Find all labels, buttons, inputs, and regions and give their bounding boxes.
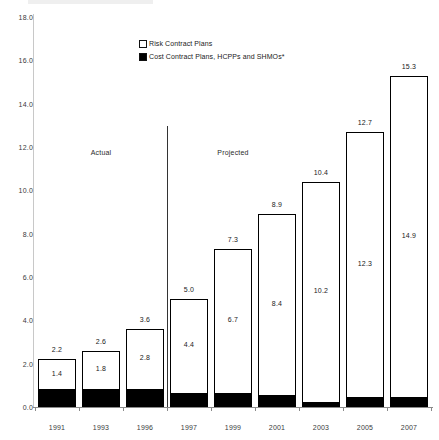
- bar-segment-risk: [38, 359, 76, 407]
- bar-segment-risk: [390, 76, 428, 408]
- bar-segment-risk: [302, 182, 340, 407]
- bar-group: 2.21.4: [38, 0, 76, 407]
- bar-segment-cost: [171, 393, 207, 406]
- y-axis-tick-label: 2.0: [5, 360, 33, 367]
- x-axis-tick-label: 2003: [313, 424, 329, 431]
- y-axis-tick-label: 12.0: [5, 144, 33, 151]
- x-axis-tick-label: 1999: [225, 424, 241, 431]
- bar-segment-risk: [170, 299, 208, 407]
- x-axis-tick-mark: [35, 407, 36, 411]
- x-axis-tick-mark: [167, 407, 168, 411]
- bar-group: 15.314.9: [390, 0, 428, 407]
- bar-group: 3.62.8: [126, 0, 164, 407]
- bar-total-value-label: 5.0: [170, 286, 208, 293]
- bar-total-value-label: 8.9: [258, 201, 296, 208]
- phase-divider-line: [167, 126, 168, 407]
- bar-risk-value-label: 4.4: [170, 341, 208, 348]
- bar-risk-value-label: 1.8: [82, 365, 120, 372]
- y-axis-tick-label: 16.0: [5, 57, 33, 64]
- y-axis-tick-label: 0.0: [5, 404, 33, 411]
- bar-segment-risk: [346, 132, 384, 407]
- bar-segment-cost: [127, 389, 163, 406]
- bar-total-value-label: 7.3: [214, 236, 252, 243]
- x-axis-tick-mark: [431, 407, 432, 411]
- bar-total-value-label: 2.2: [38, 346, 76, 353]
- x-axis-tick-mark: [387, 407, 388, 411]
- x-axis-tick-mark: [343, 407, 344, 411]
- bar-risk-value-label: 1.4: [38, 370, 76, 377]
- x-axis-tick-label: 2005: [357, 424, 373, 431]
- x-axis-tick-label: 1996: [137, 424, 153, 431]
- x-axis-tick-label: 2007: [401, 424, 417, 431]
- bar-total-value-label: 10.4: [302, 169, 340, 176]
- x-axis-tick-mark: [299, 407, 300, 411]
- x-axis-tick-label: 1993: [93, 424, 109, 431]
- bar-risk-value-label: 6.7: [214, 316, 252, 323]
- bar-segment-risk: [82, 351, 120, 407]
- bar-total-value-label: 12.7: [346, 119, 384, 126]
- bar-segment-risk: [258, 214, 296, 407]
- bar-total-value-label: 2.6: [82, 338, 120, 345]
- bar-group: 7.36.7: [214, 0, 252, 407]
- y-axis-line: [33, 14, 34, 408]
- bar-segment-cost: [83, 389, 119, 406]
- y-axis-tick-label: 10.0: [5, 187, 33, 194]
- x-axis-tick-mark: [79, 407, 80, 411]
- x-axis-tick-label: 1997: [181, 424, 197, 431]
- bar-segment-cost: [39, 389, 75, 406]
- bar-risk-value-label: 10.2: [302, 287, 340, 294]
- bar-group: 5.04.4: [170, 0, 208, 407]
- bar-segment-cost: [215, 393, 251, 406]
- x-axis-line: [33, 407, 433, 408]
- x-axis-tick-mark: [211, 407, 212, 411]
- bar-segment-cost: [259, 395, 295, 406]
- bar-group: 8.98.4: [258, 0, 296, 407]
- y-axis-tick-label: 14.0: [5, 100, 33, 107]
- x-axis-tick-mark: [123, 407, 124, 411]
- x-axis-tick-label: 2001: [269, 424, 285, 431]
- bar-risk-value-label: 2.8: [126, 354, 164, 361]
- x-axis-tick-mark: [255, 407, 256, 411]
- x-axis-tick-label: 1991: [49, 424, 65, 431]
- bar-group: 10.410.2: [302, 0, 340, 407]
- bar-risk-value-label: 14.9: [390, 232, 428, 239]
- bar-risk-value-label: 8.4: [258, 300, 296, 307]
- bar-segment-cost: [391, 397, 427, 406]
- y-axis-tick-label: 8.0: [5, 230, 33, 237]
- bar-segment-risk: [126, 329, 164, 407]
- y-axis-tick-label: 4.0: [5, 317, 33, 324]
- bar-group: 2.61.8: [82, 0, 120, 407]
- chart-container: 0.02.04.06.08.010.012.014.016.018.0 1991…: [0, 0, 439, 440]
- bar-risk-value-label: 12.3: [346, 260, 384, 267]
- bar-segment-risk: [214, 249, 252, 407]
- bar-total-value-label: 15.3: [390, 63, 428, 70]
- bar-segment-cost: [303, 402, 339, 406]
- bar-segment-cost: [347, 397, 383, 406]
- y-axis-tick-label: 6.0: [5, 274, 33, 281]
- bar-total-value-label: 3.6: [126, 316, 164, 323]
- y-axis-tick-label: 18.0: [5, 14, 33, 21]
- bar-group: 12.712.3: [346, 0, 384, 407]
